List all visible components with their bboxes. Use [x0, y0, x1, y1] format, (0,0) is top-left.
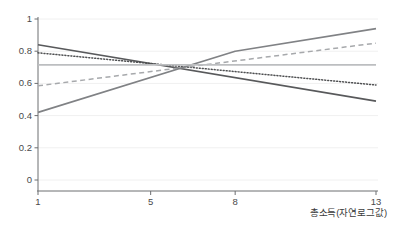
axis-spines — [37, 17, 378, 191]
y-tick-label: 0.2 — [6, 143, 32, 153]
x-axis-title: 총소득(자연로그값) — [310, 205, 387, 219]
y-axis-ticks — [35, 19, 39, 180]
x-tick-label: 1 — [23, 197, 53, 207]
y-tick-label: 0 — [6, 175, 32, 185]
series-line-declining-dotted — [38, 53, 376, 85]
y-tick-label: 0.6 — [6, 78, 32, 88]
series-line-rising-solid-gray — [38, 29, 376, 113]
chart-container: 00.20.40.60.81 15813 총소득(자연로그값) — [0, 0, 395, 230]
series-line-declining-solid-dark — [38, 45, 376, 101]
x-axis-ticks — [38, 191, 376, 195]
gridlines — [38, 19, 378, 180]
x-tick-label: 8 — [220, 197, 250, 207]
y-tick-label: 1 — [6, 14, 32, 24]
x-tick-label: 5 — [136, 197, 166, 207]
y-tick-label: 0.8 — [6, 46, 32, 56]
line-chart-plot — [0, 0, 395, 230]
y-tick-label: 0.4 — [6, 111, 32, 121]
